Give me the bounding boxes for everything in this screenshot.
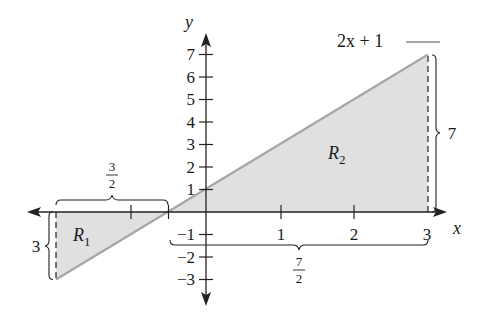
legend: 2x + 1	[337, 31, 440, 51]
brace-left-label: 3	[32, 237, 41, 256]
y-tick-neg3: −3	[177, 270, 195, 289]
brace-right: 7	[432, 55, 457, 212]
brace-top: 3 2	[56, 159, 168, 205]
area-chart: 1 2 3 x 7 6 5 4 3 2 1 −1 −2 −3 y	[0, 0, 483, 317]
brace-top-numerator: 3	[109, 159, 116, 174]
brace-right-label: 7	[448, 124, 457, 143]
brace-bottom-denominator: 2	[296, 271, 303, 286]
y-tick-7: 7	[187, 45, 196, 64]
brace-top-denominator: 2	[109, 176, 116, 191]
y-axis: 7 6 5 4 3 2 1 −1 −2 −3 y	[177, 12, 213, 306]
y-tick-5: 5	[187, 90, 196, 109]
y-tick-3: 3	[187, 135, 196, 154]
x-tick-1: 1	[277, 225, 286, 244]
x-tick-3: 3	[423, 225, 432, 244]
y-tick-neg1: −1	[177, 225, 195, 244]
y-tick-2: 2	[187, 158, 196, 177]
y-tick-neg2: −2	[177, 248, 195, 267]
brace-bottom-numerator: 7	[296, 254, 303, 269]
x-axis-label: x	[452, 218, 461, 238]
y-tick-4: 4	[187, 113, 196, 132]
brace-left: 3	[32, 212, 53, 280]
y-tick-6: 6	[187, 68, 196, 87]
y-axis-label: y	[183, 12, 193, 32]
x-tick-2: 2	[350, 225, 359, 244]
legend-label: 2x + 1	[337, 31, 383, 51]
y-tick-1: 1	[187, 180, 196, 199]
